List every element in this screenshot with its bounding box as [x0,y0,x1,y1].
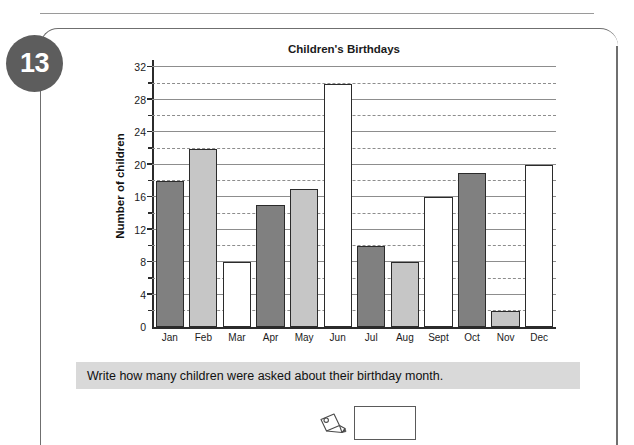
bar-jun [324,84,352,328]
y-tick-label-12: 12 [134,224,146,236]
y-tick-mark-10 [148,245,152,246]
question-number-badge: 13 [6,35,63,92]
bar-chart: Children's Birthdays Number of children … [100,40,560,360]
y-tick-label-28: 28 [134,94,146,106]
x-axis-label-may: May [287,332,321,343]
y-tick-label-20: 20 [134,159,146,171]
bar-apr [256,205,284,327]
bar-slot-sept [422,67,456,327]
plot-area: 048121620242832 [152,67,556,329]
y-tick-mark-2 [148,310,152,311]
y-tick-label-4: 4 [140,289,146,301]
bar-slot-jul [354,67,388,327]
bar-slot-jun [321,67,355,327]
y-tick-mark-6 [148,277,152,278]
y-tick-mark-8 [147,261,152,262]
bar-mar [223,262,251,327]
x-axis-label-apr: Apr [254,332,288,343]
bar-feb [189,149,217,328]
question-prompt-text: Write how many children were asked about… [87,369,443,383]
bar-slot-dec [522,67,556,327]
bar-slot-oct [455,67,489,327]
x-axis-label-aug: Aug [388,332,422,343]
question-prompt: Write how many children were asked about… [76,362,580,389]
y-tick-mark-22 [148,147,152,148]
x-axis-label-mar: Mar [220,332,254,343]
y-tick-mark-12 [147,228,152,229]
bar-group [153,67,556,327]
bar-slot-nov [489,67,523,327]
y-tick-mark-4 [147,293,152,294]
x-axis-label-jul: Jul [354,332,388,343]
x-axis-label-feb: Feb [187,332,221,343]
bar-sept [424,197,452,327]
page-header-rule [40,13,594,14]
y-tick-mark-26 [148,115,152,116]
bar-slot-mar [220,67,254,327]
bar-jul [357,246,385,327]
y-tick-mark-14 [148,212,152,213]
x-axis-labels: JanFebMarAprMayJunJulAugSeptOctNovDec [153,332,556,343]
bar-slot-aug [388,67,422,327]
pencil-icon [318,410,348,436]
answer-input-box[interactable] [354,406,416,440]
x-axis-line [152,327,556,329]
y-axis-title: Number of children [114,96,126,276]
bar-slot-jan [153,67,187,327]
x-axis-label-dec: Dec [522,332,556,343]
y-tick-label-24: 24 [134,126,146,138]
y-tick-mark-28 [147,98,152,99]
y-tick-mark-20 [147,163,152,164]
x-axis-label-sept: Sept [422,332,456,343]
bar-slot-feb [187,67,221,327]
y-tick-mark-18 [148,180,152,181]
chart-title: Children's Birthdays [100,43,560,55]
x-axis-label-oct: Oct [455,332,489,343]
x-axis-label-nov: Nov [489,332,523,343]
bar-oct [458,173,486,327]
y-tick-label-0: 0 [140,321,146,333]
y-tick-mark-24 [147,131,152,132]
y-tick-label-8: 8 [140,256,146,268]
bar-dec [525,165,553,328]
bar-slot-may [287,67,321,327]
bar-may [290,189,318,327]
bar-slot-apr [254,67,288,327]
x-axis-label-jan: Jan [153,332,187,343]
y-tick-label-16: 16 [134,191,146,203]
bar-aug [391,262,419,327]
bar-nov [491,311,519,327]
y-tick-mark-30 [148,82,152,83]
y-tick-mark-16 [147,196,152,197]
answer-row [318,406,416,440]
question-card-right-edge [616,46,618,445]
bar-jan [156,181,184,327]
y-tick-label-32: 32 [134,61,146,73]
y-tick-mark-32 [147,66,152,67]
x-axis-label-jun: Jun [321,332,355,343]
